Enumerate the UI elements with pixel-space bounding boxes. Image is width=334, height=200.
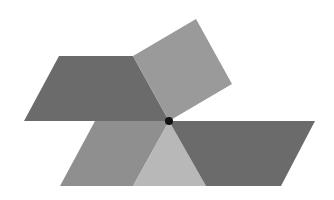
center-vertex-point — [165, 117, 173, 125]
diagram-canvas — [0, 0, 334, 200]
geometric-diagram — [0, 0, 334, 200]
